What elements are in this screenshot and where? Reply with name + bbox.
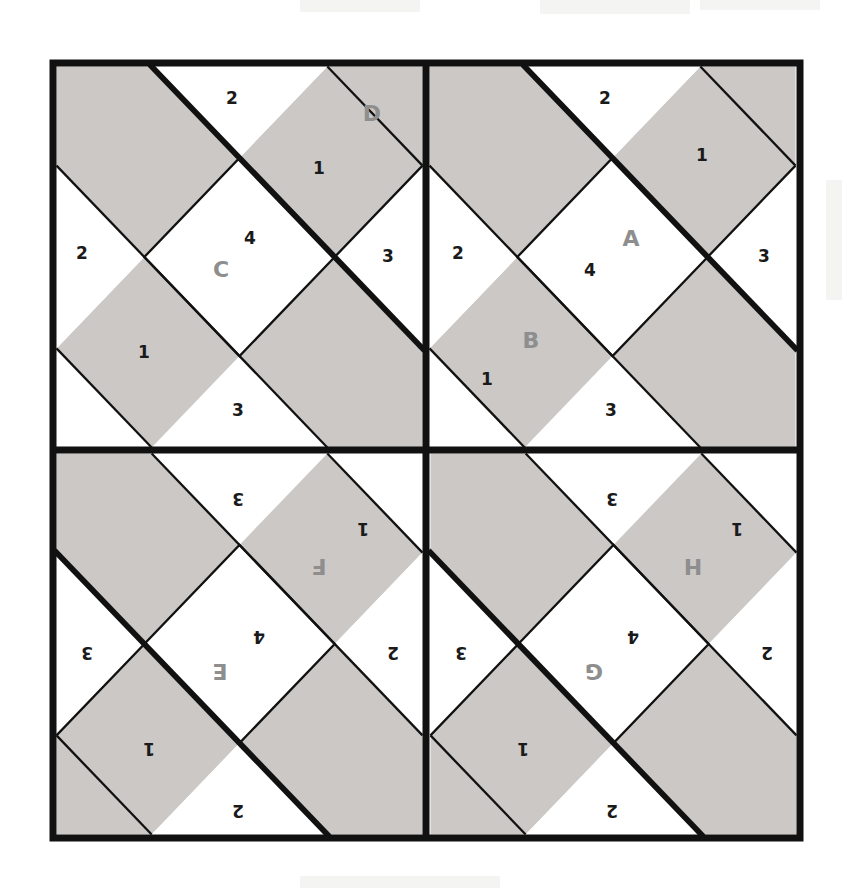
cell-number: 1: [357, 519, 369, 539]
weave-tiling-figure: 2 1 2 4 3 1 3 C D: [0, 0, 842, 888]
quadrant-top-left: 2 1 2 4 3 1 3 C D: [57, 67, 423, 448]
region-label: H: [684, 554, 702, 579]
weave-diagram-svg: 2 1 2 4 3 1 3 C D: [0, 0, 842, 888]
scan-artifact-right: [826, 180, 842, 300]
cell-number: 3: [605, 400, 617, 420]
scan-artifact-top: [300, 0, 420, 12]
scan-artifact-bottom: [300, 876, 500, 888]
cell-number: 3: [758, 246, 770, 266]
region-label: F: [311, 554, 326, 579]
cell-number: 4: [244, 228, 256, 248]
region-label: D: [363, 101, 381, 126]
cell-number: 2: [226, 88, 238, 108]
cell-number: 2: [76, 243, 88, 263]
cell-number: 4: [584, 260, 596, 280]
cell-number: 4: [627, 627, 639, 647]
cell-number: 3: [382, 246, 394, 266]
cell-number: 2: [606, 801, 618, 821]
cell-number: 1: [313, 158, 325, 178]
cell-number: 2: [452, 243, 464, 263]
region-label: G: [585, 659, 603, 684]
region-label: E: [212, 659, 227, 684]
cell-number: 3: [606, 489, 618, 509]
quadrant-bottom-right: 2 1 2 4 3 1 3 G H: [431, 454, 797, 835]
cell-number: 1: [138, 342, 150, 362]
scan-artifact-top-3: [700, 0, 820, 10]
cell-number: 3: [81, 643, 93, 663]
cell-number: 3: [232, 400, 244, 420]
cell-number: 4: [253, 627, 265, 647]
cell-number: 3: [232, 489, 244, 509]
cell-number: 2: [387, 643, 399, 663]
cell-number: 1: [696, 145, 708, 165]
quadrant-bottom-left: 2 1 2 4 3 1 3 E F: [56, 454, 422, 835]
scan-artifact-top-2: [540, 0, 690, 14]
region-label: A: [622, 226, 639, 251]
cell-number: 2: [232, 801, 244, 821]
quadrant-top-right: 2 1 2 4 3 1 3 A B: [430, 67, 796, 448]
cell-number: 1: [143, 739, 155, 759]
region-label: C: [213, 257, 229, 282]
cell-number: 2: [599, 88, 611, 108]
cell-number: 3: [455, 643, 467, 663]
region-label: B: [523, 328, 540, 353]
cell-number: 2: [761, 643, 773, 663]
cell-number: 1: [481, 369, 493, 389]
cell-number: 1: [731, 519, 743, 539]
cell-number: 1: [517, 739, 529, 759]
